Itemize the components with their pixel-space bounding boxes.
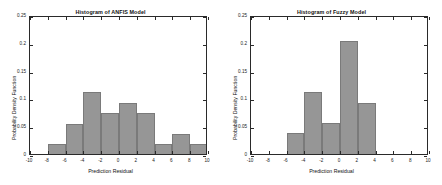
x-tick-label: 10 xyxy=(419,158,437,163)
x-tick-label: -2 xyxy=(312,158,330,163)
y-tick xyxy=(30,17,33,18)
y-tick-label: 0.15 xyxy=(231,69,247,74)
histogram-bar xyxy=(66,124,84,154)
y-tick-label: 0 xyxy=(231,152,247,157)
x-tick-label: -10 xyxy=(241,158,259,163)
x-tick-label: 2 xyxy=(348,158,366,163)
y-tick-right xyxy=(203,17,206,18)
x-tick xyxy=(101,151,102,154)
y-tick xyxy=(251,17,254,18)
x-tick-label: 4 xyxy=(145,158,163,163)
x-tick-top xyxy=(155,17,156,20)
y-tick-label: 0.05 xyxy=(10,124,26,129)
x-tick xyxy=(429,151,430,154)
x-tick xyxy=(155,151,156,154)
chart-title-fuzzy: Histogram of Fuzzy Model xyxy=(221,9,442,15)
x-tick-top xyxy=(208,17,209,20)
x-tick xyxy=(66,151,67,154)
x-tick-label: 0 xyxy=(109,158,127,163)
x-tick-label: -2 xyxy=(91,158,109,163)
x-tick xyxy=(119,151,120,154)
x-tick-label: 0 xyxy=(330,158,348,163)
x-tick-top xyxy=(287,17,288,20)
y-tick-right xyxy=(203,156,206,157)
y-tick-label: 0.1 xyxy=(10,96,26,101)
x-tick-top xyxy=(137,17,138,20)
x-axis-title-anfis: Prediction Residual xyxy=(0,168,221,174)
y-tick xyxy=(30,73,33,74)
histogram-bar xyxy=(83,92,101,154)
x-tick-top xyxy=(393,17,394,20)
y-tick-label: 0 xyxy=(10,152,26,157)
x-tick xyxy=(322,151,323,154)
y-tick-label: 0.1 xyxy=(231,96,247,101)
x-tick xyxy=(340,151,341,154)
y-tick xyxy=(30,128,33,129)
histogram-bar xyxy=(340,41,358,154)
y-tick-right xyxy=(424,156,427,157)
y-tick-label: 0.05 xyxy=(231,124,247,129)
x-tick-label: -10 xyxy=(20,158,38,163)
y-tick-right xyxy=(424,73,427,74)
x-tick-top xyxy=(66,17,67,20)
x-tick xyxy=(358,151,359,154)
x-tick xyxy=(83,151,84,154)
y-tick-right xyxy=(424,128,427,129)
y-tick xyxy=(251,73,254,74)
x-tick-top xyxy=(48,17,49,20)
x-tick xyxy=(251,151,252,154)
y-tick xyxy=(251,100,254,101)
x-tick-label: 2 xyxy=(127,158,145,163)
histogram-bar xyxy=(137,113,155,154)
x-tick-label: 10 xyxy=(198,158,216,163)
x-tick xyxy=(137,151,138,154)
x-tick-label: -4 xyxy=(73,158,91,163)
figure-canvas: Histogram of ANFIS Model Prediction Resi… xyxy=(0,0,442,185)
x-tick xyxy=(190,151,191,154)
histogram-bar xyxy=(172,134,190,154)
x-tick-top xyxy=(190,17,191,20)
y-tick-right xyxy=(203,100,206,101)
x-axis-title-fuzzy: Prediction Residual xyxy=(221,168,442,174)
plot-area-anfis xyxy=(29,16,207,155)
x-tick xyxy=(376,151,377,154)
y-tick-right xyxy=(424,45,427,46)
bars-container-anfis xyxy=(30,17,206,154)
y-tick-label: 0.25 xyxy=(231,13,247,18)
x-tick-top xyxy=(269,17,270,20)
histogram-bar xyxy=(358,103,376,154)
plot-area-fuzzy xyxy=(250,16,428,155)
y-axis-title-anfis: Probability Density Function xyxy=(11,76,17,140)
y-tick-label: 0.15 xyxy=(10,69,26,74)
histogram-bar xyxy=(119,103,137,154)
y-tick-label: 0.2 xyxy=(10,41,26,46)
x-tick-top xyxy=(358,17,359,20)
x-tick-top xyxy=(83,17,84,20)
x-tick-top xyxy=(119,17,120,20)
x-tick-top xyxy=(172,17,173,20)
chart-title-anfis: Histogram of ANFIS Model xyxy=(0,9,221,15)
x-tick-label: 6 xyxy=(383,158,401,163)
y-tick-right xyxy=(424,100,427,101)
x-tick xyxy=(411,151,412,154)
histogram-bar xyxy=(155,144,173,154)
x-tick-label: -6 xyxy=(277,158,295,163)
y-tick-label: 0.2 xyxy=(231,41,247,46)
y-tick xyxy=(251,156,254,157)
x-tick-top xyxy=(322,17,323,20)
histogram-bar xyxy=(287,133,305,154)
x-tick-top xyxy=(429,17,430,20)
x-tick-label: -4 xyxy=(294,158,312,163)
x-tick-label: 4 xyxy=(366,158,384,163)
bars-container-fuzzy xyxy=(251,17,427,154)
y-tick xyxy=(30,100,33,101)
histogram-bar xyxy=(48,144,66,154)
y-tick xyxy=(30,45,33,46)
x-tick xyxy=(30,151,31,154)
x-tick-top xyxy=(340,17,341,20)
y-tick-label: 0.25 xyxy=(10,13,26,18)
histogram-bar xyxy=(101,113,119,154)
y-tick xyxy=(251,45,254,46)
chart-panel-anfis: Histogram of ANFIS Model Prediction Resi… xyxy=(0,0,221,185)
x-tick xyxy=(393,151,394,154)
